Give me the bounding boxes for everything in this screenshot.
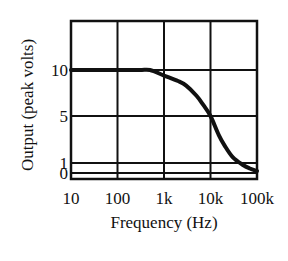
y-axis-ticks: 10510 — [51, 61, 68, 183]
y-tick-label: 5 — [60, 107, 69, 126]
y-tick-label: 10 — [51, 61, 68, 80]
chart: 10510 101001k10k100k Frequency (Hz) Outp… — [0, 0, 288, 261]
x-tick-label: 1k — [156, 189, 174, 208]
x-tick-label: 10k — [198, 189, 224, 208]
x-tick-label: 10 — [63, 189, 80, 208]
x-tick-label: 100 — [105, 189, 131, 208]
y-axis-label: Output (peak volts) — [18, 39, 37, 171]
x-axis-label: Frequency (Hz) — [110, 213, 217, 232]
x-axis-ticks: 101001k10k100k — [63, 189, 275, 208]
x-tick-label: 100k — [240, 189, 275, 208]
y-tick-label: 0 — [60, 164, 69, 183]
